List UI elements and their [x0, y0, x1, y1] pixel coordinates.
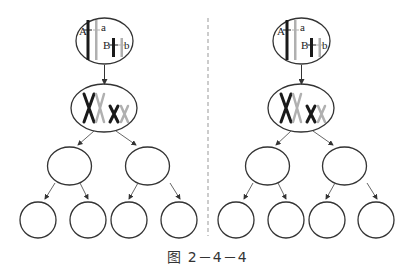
gene-label-B: B [301, 39, 308, 51]
daughter-cell [323, 147, 367, 185]
replicated-chromosomes [281, 94, 325, 122]
gene-label-A: A [277, 25, 285, 37]
chromosomes-parent: A a B b [277, 20, 328, 60]
chromosomes-parent: A a B b [79, 20, 130, 60]
gene-label-A: A [79, 25, 87, 37]
granddaughter-cell [161, 202, 197, 238]
replicated-chromosomes [84, 94, 128, 122]
gene-label-B: B [103, 39, 110, 51]
granddaughter-cell [358, 202, 394, 238]
figure-caption: 图 2－4－4 [0, 246, 415, 266]
gene-label-a: a [300, 21, 305, 33]
granddaughter-cell [268, 202, 304, 238]
left-panel: A a B b [20, 18, 197, 238]
gene-label-b: b [124, 39, 130, 51]
gene-label-b: b [322, 39, 328, 51]
meiosis-diagram: A a B b [0, 0, 415, 272]
granddaughter-cell [70, 202, 106, 238]
daughter-cell [246, 147, 290, 185]
gene-label-a: a [101, 21, 106, 33]
granddaughter-cell [218, 202, 254, 238]
granddaughter-cell [111, 202, 147, 238]
granddaughter-cell [309, 202, 345, 238]
right-panel: A a B b [218, 18, 394, 238]
daughter-cell [126, 147, 170, 185]
daughter-cell [48, 147, 92, 185]
granddaughter-cell [20, 202, 56, 238]
